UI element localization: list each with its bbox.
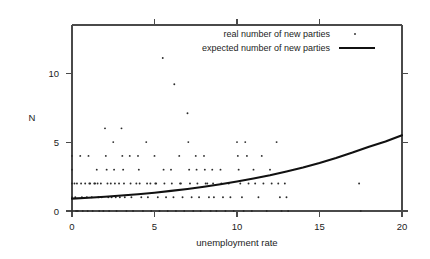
x-axis-title: unemployment rate bbox=[196, 237, 277, 248]
y-tick-label-2: 10 bbox=[48, 68, 59, 79]
data-point bbox=[162, 57, 164, 59]
data-point bbox=[102, 210, 104, 212]
data-point bbox=[155, 182, 157, 184]
data-point bbox=[150, 210, 152, 212]
data-point bbox=[189, 182, 191, 184]
data-point bbox=[71, 155, 73, 157]
data-point bbox=[165, 196, 167, 198]
data-point bbox=[187, 112, 189, 114]
data-point bbox=[104, 127, 106, 129]
data-point bbox=[112, 141, 114, 143]
x-tick-label-4: 20 bbox=[397, 221, 408, 232]
data-point bbox=[96, 169, 98, 171]
x-tick-label-2: 10 bbox=[232, 221, 243, 232]
data-point bbox=[84, 182, 86, 184]
data-point bbox=[196, 182, 198, 184]
data-point bbox=[287, 210, 289, 212]
data-point bbox=[108, 210, 110, 212]
data-point bbox=[206, 182, 208, 184]
data-point bbox=[71, 169, 73, 171]
data-point bbox=[97, 182, 99, 184]
data-point bbox=[277, 182, 279, 184]
data-point bbox=[163, 182, 165, 184]
chart-page: 0 5 10 15 20 0 5 10 unemployment rate N … bbox=[0, 0, 430, 259]
data-point bbox=[126, 210, 128, 212]
data-point bbox=[229, 196, 231, 198]
legend-marker-dot-icon bbox=[354, 33, 356, 35]
data-point bbox=[80, 182, 82, 184]
data-point bbox=[198, 196, 200, 198]
data-point bbox=[147, 196, 149, 198]
data-point bbox=[157, 196, 159, 198]
data-point bbox=[251, 210, 253, 212]
data-point bbox=[238, 169, 240, 171]
data-point bbox=[82, 210, 84, 212]
data-point bbox=[236, 141, 238, 143]
data-point bbox=[220, 169, 222, 171]
data-point bbox=[258, 196, 260, 198]
data-point bbox=[106, 169, 108, 171]
data-point bbox=[195, 155, 197, 157]
data-point bbox=[92, 210, 94, 212]
data-point bbox=[244, 141, 246, 143]
data-point bbox=[139, 182, 141, 184]
data-point bbox=[87, 210, 89, 212]
data-point bbox=[210, 210, 212, 212]
scatter-points-layer bbox=[71, 57, 362, 212]
data-point bbox=[122, 169, 124, 171]
data-point bbox=[130, 196, 132, 198]
data-point bbox=[76, 182, 78, 184]
data-point bbox=[253, 169, 255, 171]
data-point bbox=[180, 182, 182, 184]
data-point bbox=[173, 83, 175, 85]
expected-curve bbox=[72, 135, 402, 198]
data-point bbox=[203, 155, 205, 157]
data-point bbox=[149, 182, 151, 184]
data-point bbox=[75, 210, 77, 212]
x-axis-ticks-top bbox=[155, 19, 320, 25]
data-point bbox=[215, 210, 217, 212]
y-axis-tick-labels: 0 5 10 bbox=[48, 68, 59, 217]
data-point bbox=[173, 196, 175, 198]
data-point bbox=[239, 182, 241, 184]
data-point bbox=[188, 169, 190, 171]
data-point bbox=[105, 155, 107, 157]
x-tick-label-1: 5 bbox=[152, 221, 157, 232]
data-point bbox=[205, 182, 207, 184]
data-point bbox=[71, 210, 73, 212]
data-point bbox=[222, 196, 224, 198]
chart-legend: real number of new parties expected numb… bbox=[202, 29, 375, 53]
data-point bbox=[132, 210, 134, 212]
data-point bbox=[237, 155, 239, 157]
data-point bbox=[266, 210, 268, 212]
y-axis-ticks-left bbox=[66, 73, 72, 211]
data-point bbox=[276, 141, 278, 143]
data-point bbox=[137, 155, 139, 157]
data-point bbox=[110, 182, 112, 184]
data-point bbox=[88, 155, 90, 157]
data-point bbox=[187, 141, 189, 143]
data-point bbox=[89, 182, 91, 184]
data-point bbox=[192, 210, 194, 212]
data-point bbox=[113, 169, 115, 171]
data-point bbox=[114, 182, 116, 184]
data-point bbox=[171, 182, 173, 184]
data-point bbox=[79, 155, 81, 157]
data-point bbox=[243, 210, 245, 212]
data-point bbox=[196, 169, 198, 171]
data-point bbox=[74, 182, 76, 184]
data-point bbox=[140, 196, 142, 198]
y-axis-title: N bbox=[29, 112, 36, 123]
data-point bbox=[167, 210, 169, 212]
data-point bbox=[248, 182, 250, 184]
data-point bbox=[116, 210, 118, 212]
data-point bbox=[107, 182, 109, 184]
x-tick-label-0: 0 bbox=[69, 221, 74, 232]
data-point bbox=[146, 182, 148, 184]
data-point bbox=[178, 155, 180, 157]
legend-label-real: real number of new parties bbox=[223, 29, 330, 39]
data-point bbox=[124, 196, 126, 198]
data-point bbox=[183, 210, 185, 212]
data-point bbox=[123, 182, 125, 184]
x-tick-label-3: 15 bbox=[314, 221, 325, 232]
